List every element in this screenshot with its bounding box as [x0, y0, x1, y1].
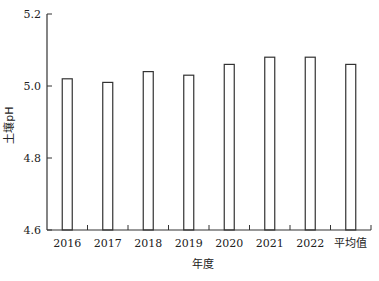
y-tick-label: 4.8	[24, 152, 42, 165]
plot-area	[62, 57, 356, 230]
bar-平均值	[346, 64, 356, 230]
y-tick-label: 5.2	[24, 8, 42, 21]
x-tick-label: 2016	[53, 237, 81, 250]
y-axis: 4.64.85.05.2	[24, 8, 53, 237]
x-axis: 2016201720182019202020212022平均值	[47, 225, 371, 250]
bar-2020	[224, 64, 234, 230]
bar-2019	[184, 75, 194, 230]
bar-2016	[62, 79, 72, 230]
bar-2018	[143, 72, 153, 230]
x-tick-label: 2017	[94, 237, 122, 250]
y-axis-title-main: 土壤	[2, 122, 16, 144]
x-tick-label: 2020	[215, 237, 243, 250]
x-tick-label: 2019	[175, 237, 203, 250]
bar-2022	[305, 57, 315, 230]
x-tick-label: 2021	[256, 237, 284, 250]
y-tick-label: 4.6	[24, 224, 42, 237]
y-axis-title-sub: pH	[3, 106, 16, 121]
x-axis-title: 年度	[192, 257, 214, 271]
bar-2021	[265, 57, 275, 230]
y-axis-title: 土壤pH	[2, 106, 16, 143]
bar-chart: 4.64.85.05.2 201620172018201920202021202…	[0, 0, 379, 281]
bar-2017	[103, 82, 113, 230]
y-tick-label: 5.0	[24, 80, 42, 93]
x-tick-label: 2022	[296, 237, 324, 250]
x-tick-label: 2018	[134, 237, 162, 250]
x-tick-label: 平均值	[334, 237, 367, 250]
